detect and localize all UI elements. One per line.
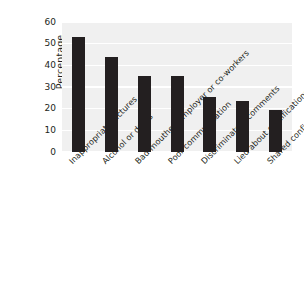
y-tick-label: 0 [36, 148, 56, 157]
y-tick-label: 30 [36, 83, 56, 92]
bar [72, 37, 85, 152]
y-tick-label: 20 [36, 104, 56, 113]
gridline [62, 43, 292, 44]
y-tick-label: 10 [36, 126, 56, 135]
bar-chart: Percentage 0102030405060 Inappropriate p… [0, 0, 304, 295]
bar [105, 57, 118, 152]
y-tick-label: 50 [36, 39, 56, 48]
gridline [62, 21, 292, 22]
y-tick-label: 60 [36, 18, 56, 27]
y-tick-label: 40 [36, 61, 56, 70]
gridline [62, 65, 292, 66]
